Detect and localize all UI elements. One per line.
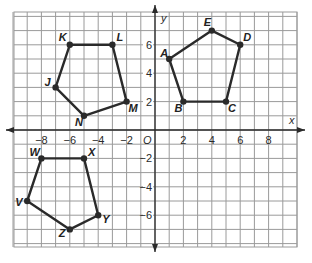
y-tick-label: 6 xyxy=(146,39,152,51)
vertex-label-d: D xyxy=(243,31,251,43)
vertex-point-x xyxy=(81,155,87,161)
vertex-label-k: K xyxy=(59,31,68,43)
vertex-label-c: C xyxy=(228,102,237,114)
vertex-label-x: X xyxy=(87,146,96,158)
y-tick-label: −2 xyxy=(139,152,152,164)
x-tick-label: −4 xyxy=(92,134,105,146)
vertex-point-l xyxy=(109,42,115,48)
x-tick-label: 2 xyxy=(180,134,186,146)
coordinate-plane: yxO−8−6−4−22468642−2−4−6 ABCDEJKLMNVWXYZ xyxy=(0,0,312,263)
x-tick-label: −6 xyxy=(64,134,77,146)
x-tick-label: −8 xyxy=(35,134,48,146)
y-axis-label: y xyxy=(160,12,168,24)
y-tick-label: −4 xyxy=(139,181,152,193)
x-tick-label: −2 xyxy=(120,134,133,146)
vertex-point-z xyxy=(67,226,73,232)
x-tick-label: 8 xyxy=(266,134,272,146)
vertex-point-e xyxy=(209,27,215,33)
polygon-abcde xyxy=(169,31,240,102)
vertex-point-y xyxy=(95,212,101,218)
origin-label: O xyxy=(143,134,152,146)
y-axis-arrow-up-icon xyxy=(152,5,158,13)
vertex-label-w: W xyxy=(29,146,41,158)
vertex-point-j xyxy=(52,84,58,90)
vertex-label-e: E xyxy=(204,16,212,28)
vertex-label-l: L xyxy=(116,31,123,43)
vertex-label-v: V xyxy=(15,196,24,208)
vertex-label-a: A xyxy=(159,47,168,59)
vertex-label-z: Z xyxy=(58,227,67,239)
y-tick-label: 4 xyxy=(146,67,152,79)
vertex-label-n: N xyxy=(75,116,84,128)
vertex-point-k xyxy=(67,42,73,48)
vertex-label-b: B xyxy=(174,102,182,114)
vertex-point-v xyxy=(24,198,30,204)
x-axis-arrow-left-icon xyxy=(6,127,14,133)
vertex-label-j: J xyxy=(45,76,52,88)
y-tick-label: 2 xyxy=(146,96,152,108)
x-tick-label: 6 xyxy=(237,134,243,146)
x-axis-label: x xyxy=(288,114,295,126)
x-axis-arrow-right-icon xyxy=(297,127,305,133)
polygon-jklmn xyxy=(56,45,127,116)
y-axis-arrow-down-icon xyxy=(152,244,158,252)
y-tick-label: −6 xyxy=(139,209,152,221)
polygons: ABCDEJKLMNVWXYZ xyxy=(15,16,251,240)
polygon-vwxyz xyxy=(27,158,98,229)
x-tick-label: 4 xyxy=(209,134,215,146)
vertex-label-m: M xyxy=(129,102,139,114)
